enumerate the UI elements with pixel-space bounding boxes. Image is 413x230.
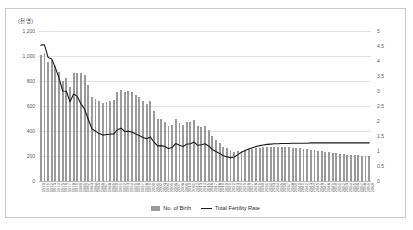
y-axis-left-tick-label: 1,000 <box>22 53 35 59</box>
y-axis-right-tick-label: 1.5 <box>377 133 384 139</box>
y-axis-right-tick-label: 0 <box>377 178 380 184</box>
chart-container: (천 명) 02004006008001,0001,200 00.511.522… <box>5 8 406 218</box>
x-axis-tick-label: 2060 <box>371 183 375 192</box>
line-series-total-fertility-rate <box>39 31 371 181</box>
y-axis-right-tick-label: 0.5 <box>377 163 384 169</box>
y-axis-left-tick-label: 0 <box>32 178 35 184</box>
plot-area <box>39 31 371 181</box>
y-axis-left-tick-label: 200 <box>27 153 35 159</box>
y-axis-right-tick-label: 4.5 <box>377 43 384 49</box>
legend-bar-swatch-icon <box>151 206 160 211</box>
y-axis-right-tick-label: 4 <box>377 58 380 64</box>
y-axis-right-tick-label: 3.5 <box>377 73 384 79</box>
y-axis-right-tick-label: 3 <box>377 88 380 94</box>
chart-legend: No. of BirthTotal Fertility Rate <box>6 205 405 211</box>
y-axis-unit-label: (천 명) <box>18 17 33 25</box>
y-axis-right-tick-label: 2 <box>377 118 380 124</box>
y-axis-right-tick-label: 2.5 <box>377 103 384 109</box>
y-axis-left-tick-label: 600 <box>27 103 35 109</box>
y-axis-left-tick-label: 400 <box>27 128 35 134</box>
legend-item[interactable]: No. of Birth <box>151 205 191 211</box>
y-axis-left-tick-label: 1,200 <box>22 28 35 34</box>
legend-item[interactable]: Total Fertility Rate <box>201 205 260 211</box>
legend-item-label: Total Fertility Rate <box>215 205 260 211</box>
y-axis-right-tick-label: 1 <box>377 148 380 154</box>
legend-item-label: No. of Birth <box>163 205 191 211</box>
gridline <box>39 181 371 182</box>
y-axis-right-tick-label: 5 <box>377 28 380 34</box>
legend-line-swatch-icon <box>201 208 212 209</box>
y-axis-left-tick-label: 800 <box>27 78 35 84</box>
